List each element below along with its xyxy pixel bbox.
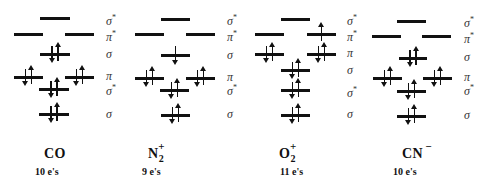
orbital-label: π	[347, 47, 353, 59]
orbital-label: π*	[227, 28, 237, 43]
antibonding-star: *	[353, 85, 357, 94]
energy-level	[255, 53, 284, 56]
spin-up-arrow-icon	[440, 69, 442, 85]
spin-up-arrow-icon	[415, 49, 417, 65]
spin-down-arrow-icon	[266, 46, 268, 60]
spin-up-arrow-icon	[203, 69, 205, 85]
spin-up-arrow-icon	[321, 25, 323, 41]
orbital-label: σ	[347, 108, 353, 120]
energy-level	[135, 77, 164, 80]
orbital-label: σ*	[347, 84, 357, 99]
energy-level	[186, 33, 215, 36]
orbital-label: σ	[227, 108, 233, 120]
spin-down-arrow-icon	[50, 106, 52, 120]
molecule-formula: O	[279, 146, 290, 161]
electron-count: 11 e's	[280, 166, 303, 177]
orbital-symbol: σ	[347, 63, 353, 77]
energy-level	[161, 114, 190, 117]
spin-up-arrow-icon	[177, 81, 179, 97]
antibonding-star: *	[233, 83, 237, 92]
spin-up-arrow-icon	[414, 107, 416, 123]
spin-down-arrow-icon	[384, 70, 386, 84]
energy-level	[39, 113, 69, 116]
antibonding-star: *	[112, 83, 116, 92]
formula-subscript: 2	[290, 153, 296, 164]
spin-down-arrow-icon	[146, 70, 148, 84]
antibonding-star: *	[112, 13, 116, 22]
spin-down-arrow-icon	[171, 82, 173, 96]
spin-down-arrow-icon	[76, 69, 78, 83]
orbital-symbol: π	[106, 69, 112, 83]
spin-down-arrow-icon	[25, 69, 27, 83]
antibonding-star: *	[353, 29, 357, 38]
spin-up-arrow-icon	[414, 82, 416, 98]
orbital-label: σ*	[464, 82, 474, 97]
molecule-name: O2+	[279, 146, 297, 164]
ion-charge: −	[425, 140, 432, 152]
orbital-symbol: σ	[347, 107, 353, 121]
energy-level	[65, 33, 94, 36]
orbital-symbol: σ	[227, 107, 233, 121]
energy-level	[40, 17, 70, 20]
energy-level	[186, 77, 215, 80]
energy-level	[135, 33, 164, 36]
energy-level	[307, 53, 336, 56]
electron-count: 10 e's	[393, 166, 417, 177]
energy-level	[14, 76, 43, 79]
energy-level	[423, 77, 452, 80]
energy-level	[40, 53, 70, 56]
antibonding-star: *	[112, 29, 116, 38]
spin-down-arrow-icon	[408, 108, 410, 122]
spin-down-arrow-icon	[409, 50, 411, 64]
spin-down-arrow-icon	[292, 62, 294, 76]
spin-down-arrow-icon	[50, 81, 52, 95]
energy-level	[372, 35, 401, 38]
orbital-label: σ*	[106, 82, 116, 97]
mo-diagram: σ*π*σπσ*σCO10 e'sσ*π*σπσ*σN2+9 e'sσ*π*πσ…	[0, 0, 489, 190]
spin-down-arrow-icon	[292, 82, 294, 96]
orbital-symbol: σ	[227, 48, 233, 62]
spin-down-arrow-icon	[172, 107, 174, 121]
antibonding-star: *	[470, 83, 474, 92]
energy-level	[14, 33, 43, 36]
spin-up-arrow-icon	[298, 106, 300, 122]
ion-charge: +	[290, 140, 297, 152]
spin-down-arrow-icon	[318, 46, 320, 60]
ion-charge: +	[158, 140, 165, 152]
energy-level	[255, 33, 284, 36]
orbital-label: σ*	[227, 12, 237, 27]
orbital-label: σ*	[227, 82, 237, 97]
energy-level	[399, 57, 427, 60]
orbital-symbol: π	[347, 46, 353, 60]
orbital-label: σ	[106, 108, 112, 120]
spin-down-arrow-icon	[292, 107, 294, 121]
electron-count: 9 e's	[142, 166, 161, 177]
orbital-symbol: σ	[106, 107, 112, 121]
spin-down-arrow-icon	[175, 46, 177, 62]
orbital-label: π*	[106, 28, 116, 43]
molecule-name: CN−	[402, 146, 432, 162]
spin-up-arrow-icon	[57, 45, 59, 61]
spin-up-arrow-icon	[324, 45, 326, 61]
energy-level	[160, 89, 189, 92]
energy-level	[281, 114, 310, 117]
orbital-label: σ	[464, 51, 470, 63]
molecule-formula: CN	[402, 146, 423, 161]
spin-up-arrow-icon	[56, 105, 58, 121]
orbital-symbol: σ	[464, 50, 470, 64]
molecule-name: CO	[44, 146, 66, 162]
energy-level	[161, 18, 190, 21]
spin-up-arrow-icon	[31, 68, 33, 84]
energy-level	[397, 90, 426, 93]
orbital-label: σ	[464, 109, 470, 121]
orbital-label: π*	[347, 28, 357, 43]
orbital-label: π	[106, 70, 112, 82]
energy-level	[281, 69, 310, 72]
spin-down-arrow-icon	[408, 83, 410, 97]
spin-down-arrow-icon	[197, 70, 199, 84]
antibonding-star: *	[233, 29, 237, 38]
orbital-symbol: σ	[464, 108, 470, 122]
energy-level	[397, 115, 426, 118]
spin-up-arrow-icon	[390, 69, 392, 85]
orbital-symbol: σ	[106, 47, 112, 61]
